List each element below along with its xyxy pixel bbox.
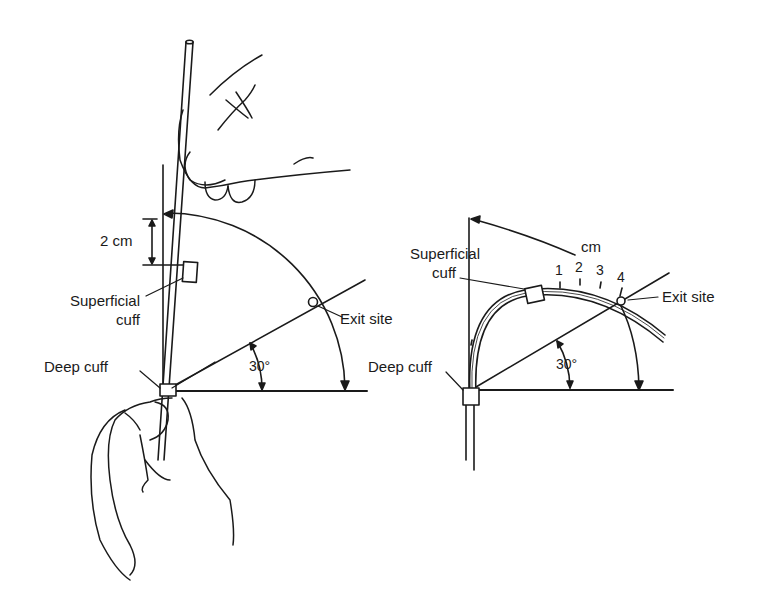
left-deep-cuff xyxy=(160,384,176,396)
left-exit-site-label: Exit site xyxy=(340,310,393,327)
right-exit-drop-arc xyxy=(620,304,639,388)
right-angle-label: 30° xyxy=(556,356,577,373)
right-panel xyxy=(446,216,673,470)
right-deep-cuff-label: Deep cuff xyxy=(368,358,432,375)
tick-label-3: 3 xyxy=(596,262,604,279)
right-exit-site-marker xyxy=(617,297,625,305)
tick-label-4: 4 xyxy=(617,269,625,286)
left-catheter xyxy=(158,40,198,460)
arc-start-arrow-icon xyxy=(164,210,173,218)
left-deep-cuff-label: Deep cuff xyxy=(44,358,108,375)
unit-label: cm xyxy=(581,238,601,255)
right-exit-site-label: Exit site xyxy=(662,288,715,305)
tick-label-2: 2 xyxy=(575,259,583,276)
arc-end-arrow-icon xyxy=(341,381,349,390)
right-deep-cuff-leader xyxy=(446,372,463,390)
exit-site-leader xyxy=(318,306,342,317)
deep-cuff-leader xyxy=(140,371,160,388)
superficial-cuff-leader xyxy=(146,278,183,296)
tick-3 xyxy=(600,282,601,288)
upper-hand-drawing xyxy=(179,55,350,202)
right-deep-cuff xyxy=(463,388,479,405)
right-arc-start-arrow-icon xyxy=(471,216,480,223)
left-superficial-cuff xyxy=(182,262,197,283)
length-label: 2 cm xyxy=(100,232,133,249)
tick-label-1: 1 xyxy=(555,262,563,279)
left-superficial-cuff-label-1: Superficial xyxy=(40,292,140,309)
left-exit-site-marker xyxy=(309,298,318,307)
left-superficial-cuff-label-2: cuff xyxy=(40,311,140,328)
right-superficial-cuff-label-1: Superficial xyxy=(380,245,480,262)
left-angle-label: 30° xyxy=(249,358,270,375)
lower-hand-drawing xyxy=(91,398,234,580)
right-superficial-cuff-label-2: cuff xyxy=(380,264,456,281)
tick-4 xyxy=(620,288,622,296)
right-superficial-cuff xyxy=(525,285,545,303)
right-exit-site-leader xyxy=(628,297,658,300)
right-cm-arc xyxy=(476,220,575,255)
